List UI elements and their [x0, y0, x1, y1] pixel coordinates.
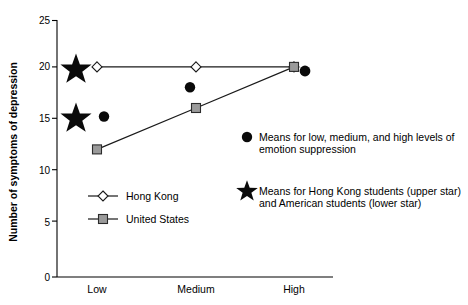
- annotation-filled-star-icon: [236, 180, 258, 200]
- y-tick-label-20: 20: [39, 61, 51, 72]
- data-point-hong-kong-low: [92, 62, 102, 72]
- annotation-filled-circle-icon: [242, 132, 252, 142]
- legend-marker-gray-square-icon: [99, 215, 108, 224]
- data-point-hong-kong-medium: [191, 62, 201, 72]
- y-axis-label: Number of symptoms of depression: [7, 62, 19, 242]
- data-point-suppression-high: [300, 66, 311, 77]
- annotation-suppression-line2: emotion suppression: [259, 143, 356, 155]
- depression-symptoms-chart: Number of symptoms of depression 25 20 1…: [0, 0, 468, 305]
- legend-label-united-states: United States: [126, 213, 189, 225]
- x-tick-label-low: Low: [87, 283, 107, 295]
- data-point-united-states-low: [93, 145, 102, 154]
- y-tick-label-25: 25: [39, 15, 51, 26]
- legend-item-united-states[interactable]: United States: [88, 213, 189, 225]
- data-point-suppression-medium: [185, 82, 195, 92]
- annotation-suppression-means: Means for low, medium, and high levels o…: [242, 131, 455, 155]
- annotation-country-means: Means for Hong Kong students (upper star…: [236, 180, 461, 209]
- data-point-united-states-medium: [192, 104, 201, 113]
- x-tick-label-high: High: [283, 283, 305, 295]
- annotation-suppression-line1: Means for low, medium, and high levels o…: [259, 131, 455, 143]
- y-tick-label-0: 0: [44, 272, 50, 283]
- legend-marker-open-diamond-icon: [98, 191, 108, 201]
- x-tick-label-medium: Medium: [177, 283, 215, 295]
- y-tick-label-10: 10: [39, 165, 51, 176]
- data-point-star-american: [60, 102, 91, 131]
- data-point-united-states-high: [290, 62, 299, 71]
- y-tick-label-15: 15: [39, 113, 51, 124]
- y-tick-label-5: 5: [44, 217, 50, 228]
- legend-item-hong-kong[interactable]: Hong Kong: [88, 190, 179, 202]
- legend-label-hong-kong: Hong Kong: [126, 190, 179, 202]
- annotation-country-line1: Means for Hong Kong students (upper star…: [259, 185, 461, 197]
- data-point-star-hong-kong: [60, 53, 91, 82]
- data-point-suppression-low: [99, 111, 109, 121]
- chart-plot-area: Number of symptoms of depression 25 20 1…: [0, 0, 468, 305]
- annotation-country-line2: and American students (lower star): [259, 197, 421, 209]
